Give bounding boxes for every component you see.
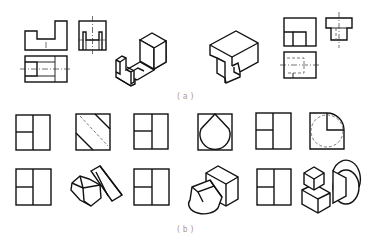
isometric-cubes-cylinder: [302, 160, 360, 213]
front-view-1: [16, 115, 50, 150]
technical-figure: [0, 0, 372, 240]
isometric-u-bracket: [116, 33, 166, 86]
view-circle-in-square: [198, 114, 232, 150]
front-view-5: [134, 169, 169, 205]
isometric-notched-block: [210, 31, 258, 83]
isometric-cylinder-block: [189, 166, 238, 214]
view-quarter-round: [310, 113, 344, 149]
three-view-notched-block: [280, 12, 352, 78]
front-view-4: [16, 169, 51, 205]
three-view-u-bracket: [20, 16, 107, 82]
front-view-6: [257, 169, 291, 205]
caption-b: (b): [176, 225, 196, 234]
isometric-hexprism-slab: [71, 166, 122, 206]
caption-a: (a): [176, 92, 196, 101]
front-view-3: [256, 113, 291, 149]
front-view-2: [134, 114, 168, 149]
view-diagonal-stripes: [76, 114, 110, 150]
